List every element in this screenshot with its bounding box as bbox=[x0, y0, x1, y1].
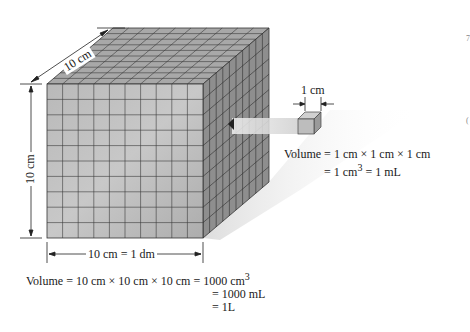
small-cube-volume-equation: Volume = 1 cm × 1 cm × 1 cm = 1 cm3 = 1 … bbox=[284, 148, 430, 179]
small-volume-line-1: Volume = 1 cm × 1 cm × 1 cm bbox=[284, 148, 430, 161]
extraction-beam bbox=[228, 118, 300, 134]
cube-front-face bbox=[47, 84, 203, 238]
margin-mark-top: 7 bbox=[466, 34, 470, 43]
width-label: 10 cm = 1 dm bbox=[86, 248, 157, 261]
margin-mark-mid: ( bbox=[466, 116, 469, 125]
large-cube-volume-equation: Volume = 10 cm × 10 cm × 10 cm = 1000 cm… bbox=[26, 270, 265, 314]
small-cube-dimension bbox=[293, 96, 334, 111]
height-label: 10 cm bbox=[24, 152, 37, 186]
small-cube bbox=[298, 112, 321, 134]
large-volume-line-3: = 1L bbox=[26, 301, 265, 314]
small-cube-size-label: 1 cm bbox=[300, 84, 326, 97]
small-volume-line-2: = 1 cm3 = 1 mL bbox=[284, 161, 430, 179]
large-volume-line-1: Volume = 10 cm × 10 cm × 10 cm = 1000 cm… bbox=[26, 270, 265, 288]
